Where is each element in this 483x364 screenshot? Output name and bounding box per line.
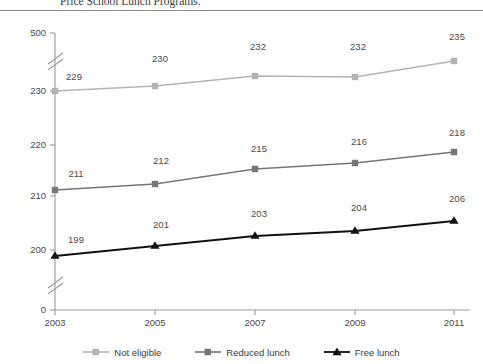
data-label: 229 <box>66 71 82 82</box>
data-point-marker <box>252 73 258 79</box>
data-label: 230 <box>152 53 168 64</box>
y-tick-label-500: 500 <box>30 27 46 38</box>
data-label: 206 <box>449 193 465 204</box>
data-label: 212 <box>153 155 169 166</box>
data-point-marker <box>449 216 458 224</box>
data-point-marker <box>152 83 158 89</box>
data-label: 218 <box>449 127 465 138</box>
legend-square-marker-icon <box>195 347 221 357</box>
data-point-marker <box>52 88 58 94</box>
data-point-marker <box>52 187 58 193</box>
series-not-eligible: 229 230 232 232 235 <box>52 31 465 94</box>
y-tick-marks <box>50 33 55 310</box>
chart-plot-area: 500 230 220 210 200 0 2003 2005 2007 200… <box>0 14 483 334</box>
legend-triangle-marker-icon <box>324 347 350 357</box>
chart-legend: Not eligible Reduced lunch Free lunch <box>0 344 483 360</box>
series-reduced-lunch: 211 212 215 216 218 <box>52 127 465 193</box>
y-tick-label-200: 200 <box>30 244 46 255</box>
legend-square-marker-icon <box>83 347 109 357</box>
legend-label: Free lunch <box>355 347 400 358</box>
data-point-marker <box>451 149 457 155</box>
legend-item-not-eligible[interactable]: Not eligible <box>83 347 161 358</box>
chart-page: Price School Lunch Programs. <box>0 0 483 364</box>
series-free-lunch: 199 201 203 204 206 <box>50 193 465 259</box>
x-tick-label-2003: 2003 <box>44 317 65 328</box>
data-label: 235 <box>449 31 465 42</box>
data-label: 232 <box>350 41 366 52</box>
data-label: 199 <box>68 234 84 245</box>
header-divider <box>0 10 483 11</box>
data-label: 232 <box>250 41 266 52</box>
data-point-marker <box>252 166 258 172</box>
data-label: 211 <box>68 168 83 179</box>
line-chart-svg: 500 230 220 210 200 0 2003 2005 2007 200… <box>0 14 483 334</box>
data-point-marker <box>152 181 158 187</box>
data-point-marker <box>352 160 358 166</box>
x-tick-label-2011: 2011 <box>444 317 464 328</box>
x-tick-label-2005: 2005 <box>144 317 165 328</box>
data-label: 215 <box>251 143 267 154</box>
legend-item-free-lunch[interactable]: Free lunch <box>324 347 400 358</box>
data-label: 201 <box>153 219 169 230</box>
y-tick-label-0: 0 <box>41 304 46 315</box>
legend-item-reduced-lunch[interactable]: Reduced lunch <box>195 347 289 358</box>
data-label: 216 <box>351 136 367 147</box>
x-tick-label-2007: 2007 <box>244 317 265 328</box>
y-tick-label-230: 230 <box>30 85 46 96</box>
x-tick-marks <box>55 310 454 315</box>
x-tick-label-2009: 2009 <box>344 317 365 328</box>
legend-label: Not eligible <box>114 347 161 358</box>
y-tick-label-220: 220 <box>30 139 46 150</box>
data-point-marker <box>451 58 457 64</box>
page-title: Price School Lunch Programs. <box>60 0 460 7</box>
data-label: 203 <box>251 208 267 219</box>
legend-label: Reduced lunch <box>226 347 289 358</box>
data-point-marker <box>352 74 358 80</box>
y-tick-label-210: 210 <box>30 190 46 201</box>
data-label: 204 <box>351 202 367 213</box>
